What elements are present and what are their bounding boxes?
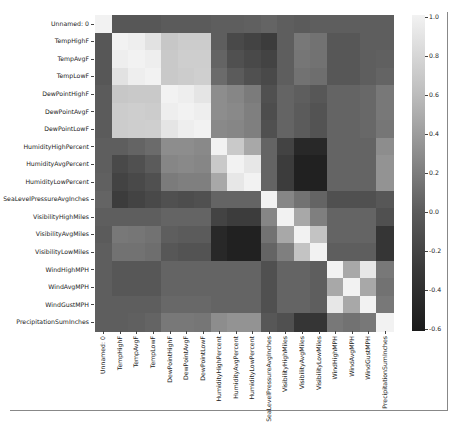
heatmap-cell <box>178 313 195 331</box>
heatmap-cell <box>194 85 211 103</box>
colorbar-tick-label: 0.4 <box>429 130 439 138</box>
heatmap-cell <box>178 103 195 121</box>
x-tick-label: WindGustMPH <box>364 336 372 380</box>
heatmap-cell <box>327 191 344 209</box>
heatmap-cell <box>343 313 360 331</box>
heatmap-cell <box>277 191 294 209</box>
colorbar-tick <box>425 17 428 18</box>
heatmap-cell <box>145 278 162 296</box>
heatmap-cell <box>294 191 311 209</box>
heatmap-cell <box>161 138 178 156</box>
heatmap-cell <box>376 50 393 68</box>
y-tick-label: HumidityAvgPercent <box>26 160 94 168</box>
heatmap-cell <box>360 138 377 156</box>
figure-border-right <box>447 12 448 411</box>
heatmap-cell <box>194 138 211 156</box>
heatmap-cell <box>310 208 327 226</box>
heatmap-cell <box>327 15 344 33</box>
heatmap-cell <box>376 226 393 244</box>
heatmap-cell <box>178 120 195 138</box>
heatmap-cell <box>244 278 261 296</box>
heatmap-cell <box>211 191 228 209</box>
colorbar-tick <box>425 329 428 330</box>
heatmap-cell <box>194 15 211 33</box>
x-tick <box>368 331 369 334</box>
heatmap-cell <box>145 120 162 138</box>
x-tick-label: WindAvgMPH <box>348 336 356 377</box>
heatmap-cell <box>343 103 360 121</box>
heatmap-cell <box>343 243 360 261</box>
x-tick <box>170 331 171 334</box>
heatmap-cell <box>145 50 162 68</box>
heatmap-cell <box>211 15 228 33</box>
heatmap-cell <box>95 15 112 33</box>
heatmap-cell <box>145 191 162 209</box>
heatmap-cell <box>145 15 162 33</box>
heatmap-cell <box>145 68 162 86</box>
heatmap-cell <box>211 173 228 191</box>
heatmap-cell <box>161 243 178 261</box>
heatmap-cell <box>244 243 261 261</box>
heatmap-cell <box>310 50 327 68</box>
heatmap-cell <box>360 68 377 86</box>
x-tick-label: VisibilityAvgMiles <box>298 336 306 389</box>
heatmap-cell <box>294 173 311 191</box>
heatmap-cell <box>261 191 278 209</box>
heatmap-cell <box>161 296 178 314</box>
heatmap-cell <box>294 296 311 314</box>
heatmap-cell <box>327 33 344 51</box>
heatmap-cell <box>161 85 178 103</box>
heatmap-cell <box>178 173 195 191</box>
heatmap-cell <box>178 50 195 68</box>
heatmap-cell <box>145 155 162 173</box>
heatmap-cell <box>161 120 178 138</box>
heatmap-cell <box>327 155 344 173</box>
heatmap-cell <box>178 243 195 261</box>
heatmap-cell <box>310 173 327 191</box>
heatmap-cell <box>178 278 195 296</box>
heatmap-cell <box>178 33 195 51</box>
heatmap-cell <box>310 191 327 209</box>
heatmap-cell <box>343 155 360 173</box>
heatmap-cell <box>261 155 278 173</box>
heatmap-cell <box>178 15 195 33</box>
y-tick-label: TempLowF <box>57 72 94 80</box>
x-tick-label: VisibilityHighMiles <box>281 336 289 392</box>
heatmap-cell <box>128 68 145 86</box>
heatmap-cell <box>95 278 112 296</box>
heatmap-cell <box>261 313 278 331</box>
heatmap-cell <box>244 138 261 156</box>
y-tick-label: PrecipitationSumInches <box>16 318 94 326</box>
heatmap-cell <box>128 33 145 51</box>
heatmap-cell <box>128 173 145 191</box>
heatmap-cell <box>277 208 294 226</box>
heatmap-cell <box>327 68 344 86</box>
colorbar-tick-label: -0.2 <box>429 247 441 255</box>
heatmap-cell <box>227 120 244 138</box>
heatmap-cell <box>310 120 327 138</box>
x-tick-label: PrecipitationSumInches <box>381 336 389 409</box>
heatmap-cell <box>310 138 327 156</box>
heatmap-cell <box>227 103 244 121</box>
heatmap-cell <box>310 313 327 331</box>
heatmap-cell <box>244 33 261 51</box>
colorbar-tick-label: 0.8 <box>429 52 439 60</box>
colorbar-tick <box>425 212 428 213</box>
heatmap-cell <box>327 313 344 331</box>
heatmap-cell <box>227 313 244 331</box>
heatmap-cell <box>360 208 377 226</box>
heatmap-cell <box>277 85 294 103</box>
y-tick-label: Unnamed: 0 <box>51 20 94 28</box>
colorbar-tick <box>425 251 428 252</box>
heatmap-cell <box>376 261 393 279</box>
x-tick-label: HumidityLowPercent <box>248 336 256 400</box>
heatmap-cell <box>161 226 178 244</box>
heatmap-cell <box>244 120 261 138</box>
heatmap-cell <box>161 155 178 173</box>
heatmap-cell <box>211 296 228 314</box>
heatmap-cell <box>211 278 228 296</box>
colorbar-tick <box>425 95 428 96</box>
colorbar-tick-label: 0.0 <box>429 208 439 216</box>
heatmap-cell <box>360 313 377 331</box>
heatmap-cell <box>294 226 311 244</box>
